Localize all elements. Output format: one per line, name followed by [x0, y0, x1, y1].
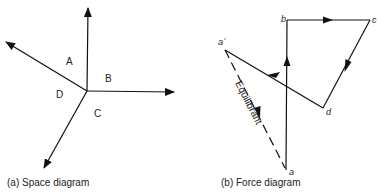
vector-ab	[286, 20, 287, 170]
region-label-b: B	[105, 73, 112, 84]
region-label-d: D	[56, 89, 63, 100]
point-label-a: a	[289, 167, 294, 177]
space-diagram	[6, 8, 174, 168]
point-label-b: b	[281, 14, 286, 24]
diagram-canvas: A B D C b c d a´ a Equilibrant	[0, 0, 391, 193]
force-arrow-upper-left	[6, 42, 87, 91]
point-label-c: c	[372, 15, 377, 25]
force-diagram-caption: (b) Force diagram	[221, 177, 300, 188]
region-label-a: A	[66, 56, 73, 67]
space-diagram-caption: (a) Space diagram	[7, 177, 89, 188]
equilibrant-label: Equilibrant	[233, 79, 264, 126]
point-label-a-prime: a´	[218, 37, 226, 47]
point-label-d: d	[326, 107, 332, 117]
force-arrow-right	[87, 91, 174, 92]
region-label-c: C	[94, 108, 101, 119]
force-arrow-lower-left	[44, 91, 87, 168]
force-arrow-up	[87, 8, 88, 91]
